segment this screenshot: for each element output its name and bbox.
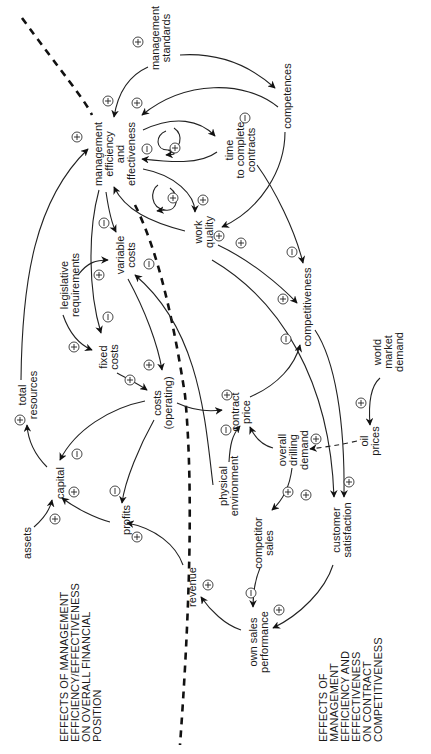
node-label-line: effectiveness bbox=[125, 122, 137, 187]
node-competitiveness: competitiveness bbox=[301, 267, 313, 346]
node-management-standards: managementstandards bbox=[149, 6, 172, 70]
polarity-plus bbox=[69, 487, 79, 497]
link-customer-satisfaction-to-own-sales bbox=[273, 565, 333, 628]
polarity-plus bbox=[144, 360, 154, 370]
link-costs-to-contract-price bbox=[177, 403, 222, 411]
caption-line: POSITION bbox=[91, 689, 103, 742]
node-competences: competences bbox=[281, 63, 293, 129]
caption-financial-position: EFFECTS OF MANAGEMENTEFFICIENCY/EFFECTIV… bbox=[58, 583, 103, 742]
link-world-demand-to-oil-prices bbox=[369, 378, 380, 425]
polarity-minus bbox=[221, 425, 231, 435]
polarity-plus bbox=[222, 390, 232, 400]
node-label-line: prices bbox=[369, 426, 381, 456]
link-mgmt-eff-to-work-quality bbox=[143, 169, 195, 212]
link-time-to-competitiveness bbox=[257, 165, 303, 263]
polarity-plus bbox=[198, 195, 208, 205]
node-label-line: resources bbox=[27, 370, 39, 419]
polarity-plus bbox=[301, 490, 311, 500]
node-label-line: costs bbox=[125, 242, 137, 268]
node-label-line: requirements bbox=[69, 252, 81, 317]
polarity-plus bbox=[133, 37, 143, 47]
polarity-plus bbox=[344, 477, 354, 487]
polarity-minus bbox=[110, 486, 120, 496]
link-time-to-mgmt-eff bbox=[142, 152, 217, 162]
polarity-plus bbox=[15, 415, 25, 425]
polarity-plus bbox=[214, 231, 224, 241]
polarity-plus bbox=[94, 270, 104, 280]
node-label-line: performance bbox=[258, 611, 270, 673]
link-mgmt-standards-to-competences bbox=[180, 55, 275, 88]
node-time-to-complete: timeto completecontracts bbox=[223, 122, 257, 179]
node-label-line: assets bbox=[21, 527, 33, 559]
polarity-plus bbox=[356, 398, 366, 408]
link-capital-to-total-resources bbox=[27, 425, 47, 467]
polarity-minus bbox=[246, 588, 256, 598]
node-label-line: (operating) bbox=[162, 376, 174, 429]
node-label-line: competences bbox=[281, 63, 293, 129]
polarity-plus bbox=[132, 532, 142, 542]
node-contract-price: contractprice bbox=[229, 392, 252, 431]
node-management-efficiency: managementefficiencyandeffectiveness bbox=[92, 122, 137, 187]
polarity-plus bbox=[125, 375, 135, 385]
node-label-line: costs bbox=[108, 344, 120, 370]
node-own-sales-performance: own salesperformance bbox=[247, 611, 270, 673]
polarity-plus bbox=[69, 342, 79, 352]
link-revenue-to-profits bbox=[127, 523, 183, 565]
link-competences-to-mgmt-eff bbox=[142, 88, 278, 115]
link-costs-to-profits bbox=[122, 420, 154, 503]
node-label-line: price bbox=[240, 400, 252, 424]
link-physical-env-to-variable-costs bbox=[135, 275, 213, 485]
polarity-plus bbox=[103, 96, 113, 106]
node-fixed-costs: fixedcosts bbox=[97, 344, 120, 370]
node-oil-prices: oilprices bbox=[358, 426, 381, 456]
link-own-sales-to-revenue bbox=[201, 597, 241, 630]
polarity-plus bbox=[72, 132, 82, 142]
node-total-resources: totalresources bbox=[16, 370, 39, 419]
polarity-plus bbox=[203, 580, 213, 590]
node-legislative-requirements: legislativerequirements bbox=[58, 252, 81, 317]
node-overall-drilling-demand: overalldrillingdemand bbox=[276, 430, 310, 470]
node-label-line: standards bbox=[160, 13, 172, 62]
nodes: managementefficiencyandeffectivenessmana… bbox=[16, 6, 406, 673]
node-label-line: revenue bbox=[186, 567, 198, 607]
link-competitiveness-to-customer-satisfaction bbox=[315, 330, 344, 497]
node-label-line: satisfaction bbox=[341, 502, 353, 557]
node-world-market-demand: worldmarketdemand bbox=[371, 332, 405, 372]
node-label-line: competitiveness bbox=[301, 267, 313, 346]
polarity-plus bbox=[236, 238, 246, 248]
link-contract-price-to-competitiveness bbox=[250, 345, 300, 397]
node-variable-costs: variablecosts bbox=[114, 236, 137, 275]
node-label-line: capital bbox=[54, 467, 66, 499]
polarity-plus bbox=[132, 98, 142, 108]
caption-contract-competitiveness: EFFECTS OFMANAGEMENTEFFICIENCY ANDEFFECT… bbox=[317, 637, 384, 742]
node-assets: assets bbox=[21, 527, 33, 559]
node-label-line: demand bbox=[298, 430, 310, 470]
link-assets-to-capital bbox=[34, 500, 52, 527]
polarity-plus bbox=[170, 143, 180, 153]
node-label-line: environment bbox=[228, 456, 240, 517]
polarity-plus bbox=[311, 434, 321, 444]
polarity-minus bbox=[142, 144, 152, 154]
node-revenue: revenue bbox=[186, 567, 198, 607]
polarity-plus bbox=[50, 514, 60, 524]
polarity-minus bbox=[103, 312, 113, 322]
causal-loop-diagram: managementefficiencyandeffectivenessmana… bbox=[0, 0, 431, 754]
node-physical-environment: physicalenvironment bbox=[217, 456, 240, 517]
link-competitor-sales-to-own-sales bbox=[253, 568, 260, 607]
polarity-plus bbox=[278, 294, 288, 304]
node-work-quality: workquality bbox=[192, 216, 215, 248]
polarity-plus bbox=[283, 487, 293, 497]
polarity-minus bbox=[99, 218, 109, 228]
node-label-line: sales bbox=[263, 530, 275, 556]
node-profits: profits bbox=[120, 505, 132, 535]
polarity-plus bbox=[168, 193, 178, 203]
node-label-line: contracts bbox=[245, 127, 257, 172]
polarity-minus bbox=[240, 113, 250, 123]
link-drilling-demand-to-contract-price bbox=[250, 427, 273, 448]
node-capital: capital bbox=[54, 467, 66, 499]
polarity-minus bbox=[281, 334, 291, 344]
polarity-minus bbox=[72, 449, 82, 459]
polarity-plus bbox=[274, 605, 284, 615]
node-customer-satisfaction: customersatisfaction bbox=[330, 502, 353, 557]
node-costs-operating: costs(operating) bbox=[151, 376, 174, 429]
